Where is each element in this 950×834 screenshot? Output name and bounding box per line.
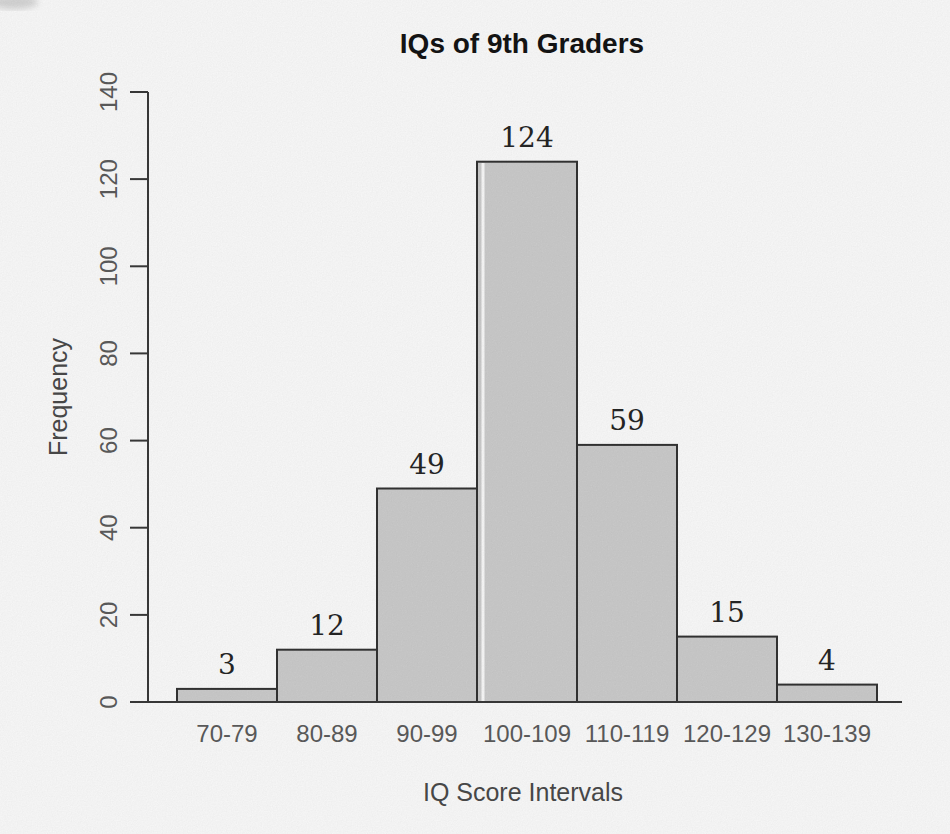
scan-noise-overlay bbox=[0, 0, 950, 834]
histogram-chart: 020406080100120140 70-7980-8990-99100-10… bbox=[0, 0, 950, 834]
scanned-histogram-page: 020406080100120140 70-7980-8990-99100-10… bbox=[0, 0, 950, 834]
